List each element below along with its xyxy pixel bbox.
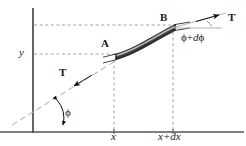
angle-phi-plus-dphi-arc xyxy=(207,21,212,27)
point-label-b: B xyxy=(160,12,167,23)
angle-phi-arc xyxy=(57,100,64,125)
axes-group xyxy=(0,8,244,133)
diagram-canvas xyxy=(0,0,246,146)
x-plus-dx-axis-value-label: x+dx xyxy=(158,131,181,142)
angle-phi-label: ϕ xyxy=(65,107,71,118)
tension-label-lower: T xyxy=(59,67,66,78)
angle-phi-plus-dphi-label: ϕ+dϕ xyxy=(181,32,204,43)
tangent-line-upper-group xyxy=(174,13,226,28)
point-label-a: A xyxy=(101,38,109,49)
figure-container: T T A B y x x+dx ϕ ϕ+dϕ xyxy=(0,0,246,146)
string-element-band xyxy=(116,25,175,60)
tension-label-upper: T xyxy=(228,12,235,23)
cap-a-upper xyxy=(103,54,116,57)
phi-glyph-2: ϕ xyxy=(199,31,205,43)
tension-arrow-lower xyxy=(74,75,92,86)
y-axis-value-label: y xyxy=(19,47,24,58)
angle-phi-group xyxy=(57,100,64,125)
x-axis-value-label: x xyxy=(111,131,116,142)
tension-arrow-upper xyxy=(196,15,219,22)
